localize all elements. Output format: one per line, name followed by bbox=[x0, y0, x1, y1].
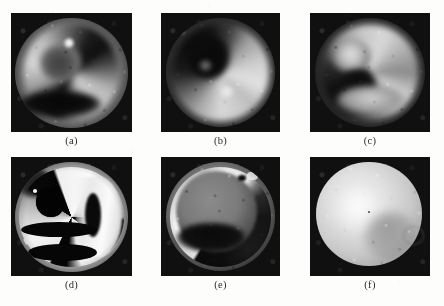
panel-c-image bbox=[310, 13, 430, 132]
panel-e-caption: (e) bbox=[161, 279, 280, 290]
panel-d-image bbox=[11, 157, 132, 276]
panel-b-disc bbox=[166, 18, 275, 127]
panel-e bbox=[161, 157, 280, 276]
panel-d-mid-dark-band bbox=[21, 222, 96, 237]
panel-f-caption: (f) bbox=[310, 279, 430, 290]
panel-a-disc bbox=[15, 18, 129, 129]
panel-a-image bbox=[11, 13, 132, 132]
panel-a bbox=[11, 13, 132, 132]
panel-b-image bbox=[161, 13, 280, 132]
panel-f-disc bbox=[316, 162, 422, 267]
panel-e-speckle bbox=[166, 162, 275, 271]
panel-f-faint-ring-mark bbox=[403, 226, 424, 245]
panel-c-disc bbox=[315, 18, 425, 127]
panel-d-central-hole bbox=[36, 188, 63, 217]
panel-b bbox=[161, 13, 280, 132]
panel-d-caption: (d) bbox=[11, 279, 132, 290]
panel-c bbox=[310, 13, 430, 132]
panel-a-speckle bbox=[15, 18, 129, 129]
panel-d-lower-dark-band bbox=[28, 244, 96, 262]
panel-b-caption: (b) bbox=[161, 135, 280, 146]
figure-root: (a) (b) bbox=[0, 0, 444, 306]
panel-d-hole-marker bbox=[33, 189, 37, 192]
panel-e-image bbox=[161, 157, 280, 276]
panel-e-disc bbox=[166, 162, 275, 271]
panel-f-speckle bbox=[316, 162, 422, 267]
panel-f bbox=[310, 157, 430, 276]
panel-a-caption: (a) bbox=[11, 135, 132, 146]
panel-c-caption: (c) bbox=[310, 135, 430, 146]
panel-c-speckle bbox=[315, 18, 425, 127]
panel-d-disc bbox=[15, 162, 129, 273]
panel-d bbox=[11, 157, 132, 276]
panel-f-image bbox=[310, 157, 430, 276]
panel-b-speckle bbox=[166, 18, 275, 127]
